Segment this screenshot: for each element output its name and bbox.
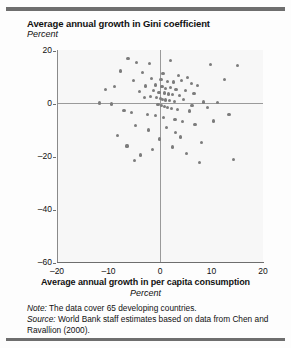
scatter-point: [173, 118, 176, 121]
scatter-point: [173, 100, 176, 103]
scatter-point: [141, 71, 144, 74]
scatter-point: [212, 119, 215, 122]
y-tick-mark: [53, 263, 56, 264]
scatter-point: [174, 131, 177, 134]
scatter-point: [159, 78, 162, 81]
note-label: Note:: [27, 303, 47, 313]
scatter-point: [193, 123, 196, 126]
source-label: Source:: [27, 314, 56, 324]
scatter-point: [157, 91, 160, 94]
scatter-point: [98, 101, 101, 104]
y-tick-mark: [53, 104, 56, 105]
x-axis-subtitle-unit: Percent: [0, 288, 291, 298]
scatter-point: [161, 72, 164, 75]
chart-subtitle-unit: Percent: [27, 29, 58, 39]
x-tick-label: 20: [248, 266, 278, 276]
scatter-point: [143, 96, 146, 99]
scatter-point: [139, 153, 142, 156]
top-rule: [6, 7, 285, 11]
scatter-point: [180, 79, 183, 82]
scatter-point: [169, 86, 172, 89]
source-text: World Bank staff estimates based on data…: [27, 314, 268, 335]
scatter-point: [147, 128, 150, 131]
scatter-point: [167, 92, 170, 95]
scatter-point: [209, 63, 212, 66]
scatter-point: [154, 83, 157, 86]
zero-line-vertical: [160, 50, 161, 262]
scatter-point: [179, 135, 182, 138]
figure-notes: Note: The data cover 65 developing count…: [27, 303, 277, 336]
scatter-point: [190, 104, 193, 107]
y-tick-mark: [53, 157, 56, 158]
x-axis-line: [57, 262, 264, 263]
bottom-rule: [6, 338, 285, 341]
note-line: Note: The data cover 65 developing count…: [27, 303, 277, 314]
scatter-point: [122, 109, 125, 112]
scatter-point: [200, 141, 203, 144]
scatter-point: [172, 80, 175, 83]
scatter-point: [202, 100, 205, 103]
y-tick-mark: [53, 210, 56, 211]
scatter-point: [164, 98, 167, 101]
y-axis-line: [57, 50, 58, 263]
scatter-point: [125, 144, 128, 147]
scatter-point: [144, 84, 147, 87]
scatter-point: [163, 91, 166, 94]
x-tick-label: 0: [145, 266, 175, 276]
x-axis-title: Average annual growth in per capita cons…: [0, 277, 291, 287]
y-tick-mark: [53, 51, 56, 52]
scatter-point: [166, 80, 169, 83]
scatter-point: [227, 113, 230, 116]
scatter-point: [232, 158, 235, 161]
chart-title: Average annual growth in Gini coefficien…: [27, 18, 277, 29]
scatter-point: [146, 113, 149, 116]
scatter-point: [206, 106, 209, 109]
x-tick-label: –10: [94, 266, 124, 276]
scatter-point: [168, 99, 171, 102]
y-tick-label: –20: [26, 151, 52, 161]
scatter-point: [110, 102, 113, 105]
scatter-point: [158, 137, 161, 140]
scatter-point: [164, 87, 167, 90]
scatter-point: [190, 82, 193, 85]
scatter-point: [130, 111, 133, 114]
y-tick-label: 20: [26, 45, 52, 55]
scatter-point: [126, 57, 129, 60]
scatter-point: [192, 92, 195, 95]
note-text: The data cover 65 developing countries.: [47, 303, 197, 313]
x-tick-label: 10: [197, 266, 227, 276]
y-tick-label: –40: [26, 204, 52, 214]
y-tick-label: 0: [26, 98, 52, 108]
scatter-point: [174, 88, 177, 91]
figure-container: Average annual growth in Gini coefficien…: [0, 0, 291, 348]
source-line: Source: World Bank staff estimates based…: [27, 314, 277, 336]
x-tick-label: –20: [42, 266, 72, 276]
